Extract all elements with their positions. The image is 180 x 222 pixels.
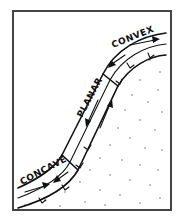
upper-boundary-line	[18, 33, 166, 188]
convex-planar-divider	[103, 74, 118, 86]
diagram-frame	[13, 11, 171, 210]
lower-boundary-line	[18, 55, 166, 208]
arrow-right-icon	[152, 36, 160, 43]
label-concave: CONCAVE	[18, 154, 68, 187]
hillslope-diagram: CONVEX PLANAR CONCAVE	[0, 0, 180, 222]
label-planar: PLANAR	[75, 76, 104, 119]
